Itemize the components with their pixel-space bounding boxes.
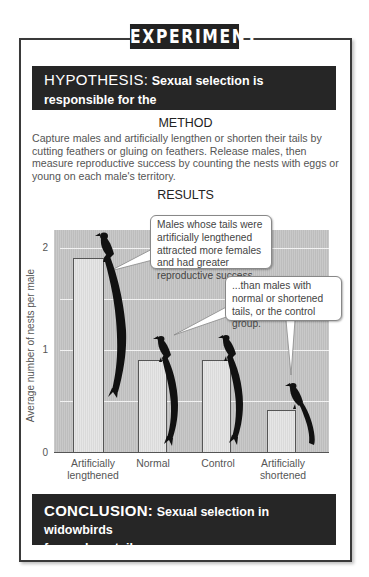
hypothesis-box: HYPOTHESIS: Sexual selection is responsi…: [32, 66, 336, 110]
x-label-line: shortened: [248, 470, 318, 482]
x-label-control: Control: [183, 458, 253, 470]
y-tick-0: 0: [36, 447, 48, 458]
bar-control: [202, 360, 231, 453]
conclusion-label: CONCLUSION:: [44, 502, 153, 519]
x-label-artificially-shortened: Artificially shortened: [248, 458, 318, 482]
x-label-line: lengthened: [58, 470, 128, 482]
callout-lengthened: Males whose tails were artificially leng…: [150, 215, 272, 269]
x-label-line: Artificially: [248, 458, 318, 470]
x-label-normal: Normal: [118, 458, 188, 470]
y-axis-label: Average number of nests per male: [25, 256, 36, 436]
method-heading: METHOD: [19, 116, 352, 130]
method-text: Capture males and artificially lengthen …: [32, 132, 342, 182]
results-heading: RESULTS: [19, 188, 352, 202]
experiment-title: EXPERIMENT: [130, 24, 239, 49]
y-tick-1: 1: [36, 344, 48, 355]
conclusion-box: CONCLUSION: Sexual selection in widowbir…: [32, 494, 336, 545]
x-label-line: Normal: [118, 458, 188, 470]
bar-normal: [138, 360, 167, 453]
x-axis: [54, 452, 329, 453]
y-tick-2: 2: [36, 242, 48, 253]
hypothesis-label: HYPOTHESIS:: [44, 71, 148, 88]
x-label-line: Control: [183, 458, 253, 470]
bar-artificially-shortened: [267, 410, 296, 453]
callout-others: ...than males with normal or shortened t…: [225, 276, 342, 321]
bar-artificially-lengthened: [73, 258, 104, 453]
conclusion-text-2: favors long tails.: [44, 539, 324, 557]
